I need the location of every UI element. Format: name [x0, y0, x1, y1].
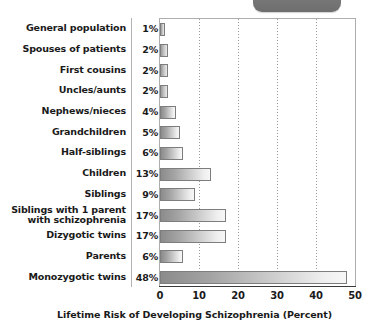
value-label: 13%	[134, 168, 158, 179]
chart-row: Siblings with 1 parent with schizophreni…	[0, 204, 367, 225]
category-label: Monozygotic twins	[0, 271, 126, 282]
x-axis-title: Lifetime Risk of Developing Schizophreni…	[0, 309, 367, 320]
value-label: 48%	[134, 271, 158, 282]
category-label: Siblings	[0, 189, 126, 200]
x-tick-label: 0	[157, 290, 164, 301]
category-label: Grandchildren	[0, 127, 126, 138]
schizophrenia-risk-bar-chart: General population1%Spouses of patients2…	[0, 0, 367, 328]
category-label: General population	[0, 23, 126, 34]
category-label: Spouses of patients	[0, 44, 126, 55]
category-label: Parents	[0, 251, 126, 262]
x-tick-label: 30	[270, 290, 284, 301]
value-label: 17%	[134, 209, 158, 220]
value-label: 2%	[134, 44, 158, 55]
category-label: First cousins	[0, 64, 126, 75]
chart-row: Siblings9%	[0, 184, 367, 205]
category-label: Half-siblings	[0, 147, 126, 158]
chart-row: Children13%	[0, 163, 367, 184]
category-label: Children	[0, 168, 126, 179]
value-label: 2%	[134, 85, 158, 96]
value-label: 6%	[134, 147, 158, 158]
value-label: 6%	[134, 250, 158, 261]
chart-row: Parents6%	[0, 246, 367, 267]
value-label: 9%	[134, 188, 158, 199]
chart-row: Dizygotic twins17%	[0, 225, 367, 246]
chart-row: Grandchildren5%	[0, 121, 367, 142]
category-label: Nephews/nieces	[0, 106, 126, 117]
chart-row: Nephews/nieces4%	[0, 101, 367, 122]
x-axis-ticks: 01020304050	[0, 290, 367, 304]
chart-row: First cousins2%	[0, 59, 367, 80]
chart-row: Spouses of patients2%	[0, 39, 367, 60]
x-tick-label: 10	[192, 290, 206, 301]
value-label: 5%	[134, 126, 158, 137]
x-tick-label: 20	[231, 290, 245, 301]
value-label: 1%	[134, 23, 158, 34]
chart-rows: General population1%Spouses of patients2…	[0, 18, 367, 287]
x-tick-label: 40	[309, 290, 323, 301]
x-tick-label: 50	[348, 290, 362, 301]
value-label: 2%	[134, 64, 158, 75]
chart-row: Monozygotic twins48%	[0, 266, 367, 287]
chart-row: Half-siblings6%	[0, 142, 367, 163]
value-label: 4%	[134, 106, 158, 117]
value-label: 17%	[134, 230, 158, 241]
chart-row: Uncles/aunts2%	[0, 80, 367, 101]
chart-row: General population1%	[0, 18, 367, 39]
category-label: Uncles/aunts	[0, 85, 126, 96]
category-label: Dizygotic twins	[0, 230, 126, 241]
category-label: Siblings with 1 parent with schizophreni…	[0, 204, 126, 225]
